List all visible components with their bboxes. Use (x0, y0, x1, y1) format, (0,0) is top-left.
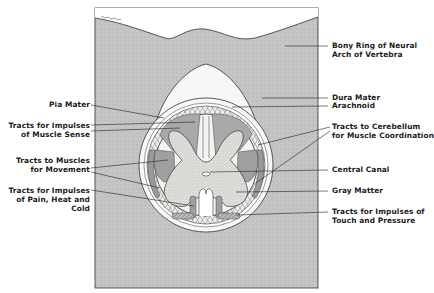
label-touch-pressure: Tracts for Impulses of Touch and Pressur… (332, 207, 425, 225)
label-arachnoid: Arachnoid (332, 101, 375, 110)
label-pia-mater: Pia Mater (49, 100, 90, 109)
touch-tract-left (172, 213, 194, 219)
label-muscle-sense: Tracts for Impulses of Muscle Sense (8, 121, 90, 139)
central-canal (202, 172, 210, 176)
label-cerebellum: Tracts to Cerebellum for Muscle Coordina… (332, 122, 434, 140)
label-bony-ring: Bony Ring of Neural Arch of Vertebra (332, 41, 417, 59)
label-pain-heat-cold: Tracts for Impulses of Pain, Heat and Co… (8, 186, 90, 213)
label-movement: Tracts to Muscles for Movement (16, 156, 90, 174)
label-central-canal: Central Canal (332, 165, 389, 174)
label-gray-matter: Gray Matter (332, 186, 383, 195)
touch-tract-right (218, 213, 240, 219)
